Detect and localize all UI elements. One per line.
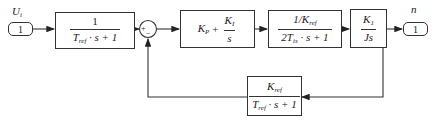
current-loop-block[interactable]: 1/Kref 2Tis · s + 1 <box>268 10 342 48</box>
mechanical-block[interactable]: K1 Js <box>350 9 387 48</box>
feedback-block[interactable]: Kref Tref · s + 1 <box>247 76 302 116</box>
input-port[interactable]: 1 <box>8 22 33 36</box>
prefilter-denominator: Tref · s + 1 <box>70 29 121 45</box>
current-loop-denominator: 2Tis · s + 1 <box>278 29 331 45</box>
sum-plus-sign: + <box>141 24 146 33</box>
output-label: n <box>411 3 417 15</box>
output-port[interactable]: 1 <box>403 22 428 36</box>
input-port-number: 1 <box>18 24 23 35</box>
sum-minus-sign: − <box>146 29 151 38</box>
plus-sign: + <box>212 23 218 35</box>
prefilter-block[interactable]: 1 Tref · s + 1 <box>55 12 135 49</box>
pi-controller-block[interactable]: KP + KI s <box>180 10 255 48</box>
output-port-number: 1 <box>413 24 418 35</box>
feedback-numerator: Kref <box>264 81 285 96</box>
mechanical-numerator: K1 <box>360 14 377 29</box>
ki-numerator: KI <box>222 15 238 30</box>
mechanical-denominator: Js <box>361 29 376 43</box>
current-loop-numerator: 1/Kref <box>290 14 319 29</box>
ki-denominator: s <box>224 30 234 44</box>
feedback-denominator: Tref · s + 1 <box>249 96 300 112</box>
prefilter-numerator: 1 <box>89 16 101 29</box>
input-label: Ui <box>12 5 22 19</box>
kp-term: KP <box>198 22 210 36</box>
